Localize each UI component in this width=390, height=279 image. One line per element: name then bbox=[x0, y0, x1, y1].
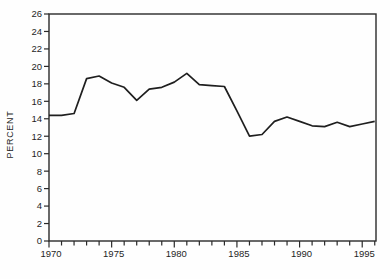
y-axis-tick-label: 26 bbox=[31, 8, 42, 19]
y-axis-tick-label: 2 bbox=[37, 218, 42, 229]
y-axis: 02468101214161820222426 bbox=[31, 8, 49, 246]
y-axis-tick-label: 12 bbox=[31, 131, 42, 142]
y-axis-tick-label: 0 bbox=[37, 235, 42, 246]
y-axis-tick-label: 4 bbox=[37, 200, 42, 211]
scanned-chart-page: 02468101214161820222426 1970197519801985… bbox=[0, 0, 390, 279]
x-axis-tick-label: 1990 bbox=[291, 248, 312, 259]
y-axis-tick-label: 24 bbox=[31, 26, 42, 37]
percent-line bbox=[49, 73, 375, 136]
x-axis-tick-label: 1970 bbox=[40, 248, 61, 259]
y-axis-tick-label: 20 bbox=[31, 61, 42, 72]
line-chart: 02468101214161820222426 1970197519801985… bbox=[0, 0, 390, 279]
plot-border bbox=[49, 14, 376, 241]
y-axis-tick-label: 6 bbox=[37, 183, 42, 194]
y-axis-title: PERCENT bbox=[5, 111, 15, 159]
y-axis-tick-label: 16 bbox=[31, 96, 42, 107]
y-axis-tick-label: 18 bbox=[31, 78, 42, 89]
x-axis: 197019751980198519901995 bbox=[40, 241, 374, 259]
x-axis-tick-label: 1980 bbox=[166, 248, 187, 259]
y-axis-tick-label: 22 bbox=[31, 43, 42, 54]
y-axis-tick-label: 14 bbox=[31, 113, 42, 124]
x-axis-tick-label: 1985 bbox=[228, 248, 249, 259]
x-axis-tick-label: 1975 bbox=[103, 248, 124, 259]
plot-border-rect bbox=[49, 14, 376, 241]
data-series bbox=[49, 73, 375, 136]
x-axis-tick-label: 1995 bbox=[354, 248, 375, 259]
y-axis-tick-label: 8 bbox=[37, 166, 42, 177]
chart-figure: 02468101214161820222426 1970197519801985… bbox=[0, 0, 390, 279]
y-axis-tick-label: 10 bbox=[31, 148, 42, 159]
